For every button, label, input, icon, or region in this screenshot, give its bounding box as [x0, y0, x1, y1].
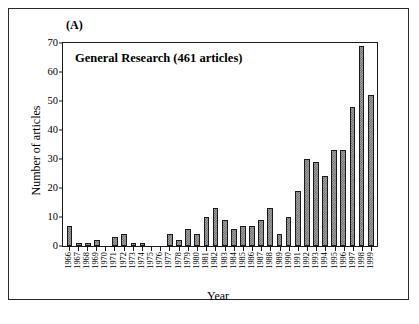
x-tick-mark: [298, 247, 299, 251]
bar-slot: [193, 43, 202, 246]
bar: [167, 234, 173, 246]
x-tick-mark: [316, 247, 317, 251]
x-tick-mark: [87, 247, 88, 251]
bar: [222, 220, 228, 246]
bar-slot: [111, 43, 120, 246]
bar-slot: [321, 43, 330, 246]
x-tick-label: 1967: [74, 252, 82, 269]
bar-slot: [202, 43, 211, 246]
x-label-slot: 1999: [367, 252, 376, 286]
bar-slot: [238, 43, 247, 246]
bar: [313, 162, 319, 246]
bar-slot: [102, 43, 111, 246]
y-axis-label: Number of articles: [29, 66, 44, 236]
bar-slot: [302, 43, 311, 246]
bar-slot: [266, 43, 275, 246]
x-tick-mark: [234, 247, 235, 251]
x-tick-mark: [362, 247, 363, 251]
bar-slot: [284, 43, 293, 246]
bar-slot: [175, 43, 184, 246]
x-tick-mark: [243, 247, 244, 251]
x-tick-mark: [215, 247, 216, 251]
x-tick-mark: [206, 247, 207, 251]
bar-slot: [229, 43, 238, 246]
x-tick-mark: [78, 247, 79, 251]
bar: [76, 243, 82, 246]
x-label-slot: 1977: [165, 252, 174, 286]
panel-label: (A): [66, 18, 83, 33]
x-label-slot: 1989: [275, 252, 284, 286]
bar: [140, 243, 146, 246]
bar: [258, 220, 264, 246]
x-tick-label: 1994: [321, 252, 329, 269]
x-tick-label: 1972: [119, 252, 127, 269]
x-tick-mark: [105, 247, 106, 251]
plot-area: General Research (461 articles) 01020304…: [62, 42, 378, 247]
bar-slot: [348, 43, 357, 246]
x-label-slot: 1988: [266, 252, 275, 286]
bar-slot: [366, 43, 375, 246]
x-tick-label: 1978: [174, 252, 182, 269]
x-tick-label: 1982: [211, 252, 219, 269]
bar-slot: [220, 43, 229, 246]
bar-slot: [129, 43, 138, 246]
x-label-slot: 1982: [211, 252, 220, 286]
x-tick-label: 1995: [330, 252, 338, 269]
bar: [267, 208, 273, 246]
bar: [213, 208, 219, 246]
bar: [249, 226, 255, 246]
x-tick-label: 1971: [110, 252, 118, 269]
bar: [350, 107, 356, 246]
bar-slot: [257, 43, 266, 246]
bar-slot: [83, 43, 92, 246]
bar: [131, 243, 137, 246]
x-tick-mark: [114, 247, 115, 251]
bar-slot: [275, 43, 284, 246]
bar: [94, 240, 100, 246]
bar: [331, 150, 337, 246]
x-tick-mark: [325, 247, 326, 251]
x-tick-mark: [188, 247, 189, 251]
x-tick-mark: [289, 247, 290, 251]
bar: [277, 234, 283, 246]
bar-slot: [147, 43, 156, 246]
bar-slot: [120, 43, 129, 246]
x-tick-mark: [96, 247, 97, 251]
x-tick-mark: [160, 247, 161, 251]
bar: [176, 240, 182, 246]
x-tick-mark: [353, 247, 354, 251]
bar-slot: [330, 43, 339, 246]
x-tick-mark: [151, 247, 152, 251]
bar-slot: [138, 43, 147, 246]
bar-slot: [357, 43, 366, 246]
bar: [359, 46, 365, 246]
x-tick-label: 1988: [266, 252, 274, 269]
x-tick-mark: [225, 247, 226, 251]
x-tick-label: 1966: [64, 252, 72, 269]
bar-slot: [184, 43, 193, 246]
x-tick-label: 1983: [220, 252, 228, 269]
bar: [240, 226, 246, 246]
bar: [194, 234, 200, 246]
x-tick-label: 1979: [184, 252, 192, 269]
bar-slot: [211, 43, 220, 246]
x-tick-mark: [179, 247, 180, 251]
bar: [121, 234, 127, 246]
x-tick-label: 1973: [129, 252, 137, 269]
bar-slot: [311, 43, 320, 246]
x-axis-label: Year: [58, 289, 378, 304]
bar: [231, 229, 237, 246]
bar-slot: [165, 43, 174, 246]
x-tick-mark: [335, 247, 336, 251]
x-tick-label: 1989: [275, 252, 283, 269]
x-tick-label: 1990: [285, 252, 293, 269]
bar-slot: [65, 43, 74, 246]
x-tick-mark: [133, 247, 134, 251]
bar-slot: [156, 43, 165, 246]
x-tick-mark: [270, 247, 271, 251]
bar-slot: [74, 43, 83, 246]
bar-slot: [248, 43, 257, 246]
bar: [295, 191, 301, 246]
bar-slot: [293, 43, 302, 246]
x-label-slot: 1971: [110, 252, 119, 286]
